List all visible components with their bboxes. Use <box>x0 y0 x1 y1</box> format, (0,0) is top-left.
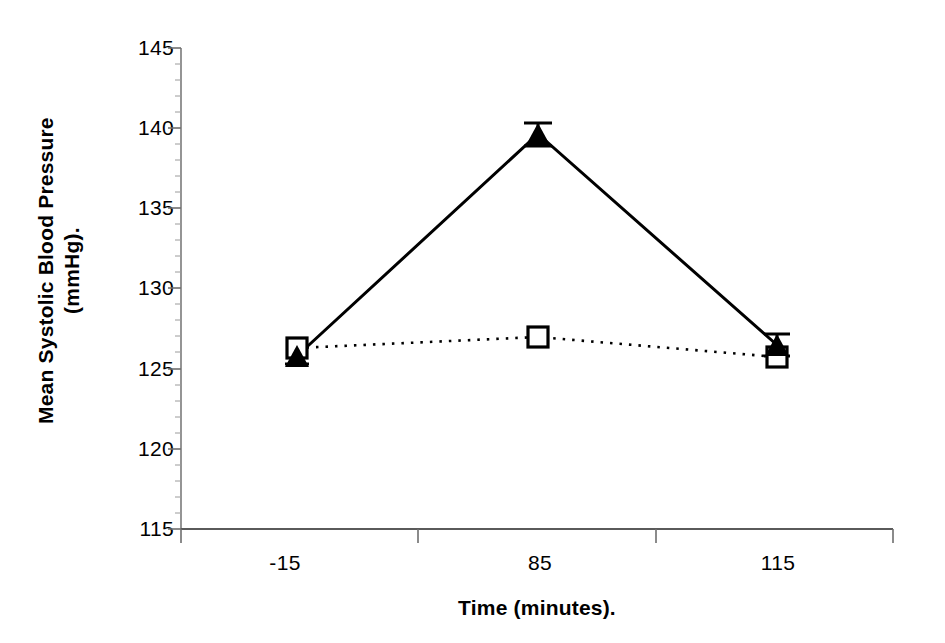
y-major-ticks <box>168 48 181 529</box>
chart-figure: Mean Systolic Blood Pressure (mmHg). 145… <box>0 0 945 643</box>
open-square-markers <box>287 327 787 367</box>
x-ticks <box>181 529 893 543</box>
filled-triangle-series-line <box>297 134 777 356</box>
open-square-marker-2 <box>528 327 548 347</box>
filled-triangle-marker-2 <box>526 123 550 145</box>
plot-area <box>0 0 945 643</box>
